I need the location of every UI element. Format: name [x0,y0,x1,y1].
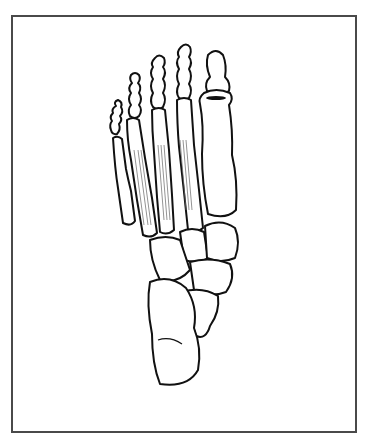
foot-skeleton-illustration [0,0,376,440]
tarsal-bones [148,222,238,384]
medial-cuneiform [205,222,238,261]
second-toe-bones [177,45,203,232]
hallux-bones [200,51,237,216]
